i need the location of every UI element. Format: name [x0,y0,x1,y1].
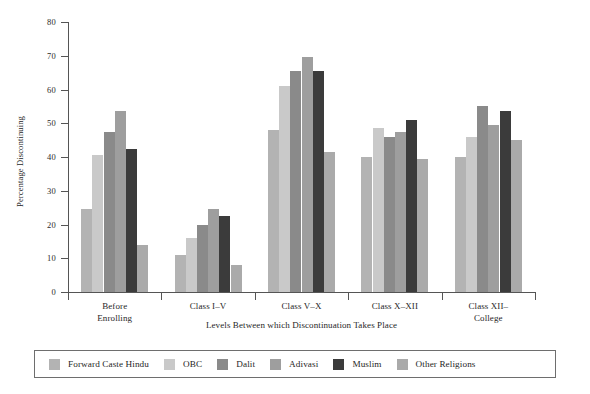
legend-label: Dalit [236,359,255,369]
y-axis-tick-label: 70 [30,52,56,61]
bar [186,238,197,292]
legend-item[interactable]: Forward Caste Hindu [49,359,149,370]
bar [313,71,324,292]
legend-item[interactable]: OBC [164,359,202,370]
legend: Forward Caste HinduOBCDalitAdivasiMuslim… [34,350,556,378]
x-axis-group-label-line: Class X–XII [345,301,445,313]
y-axis-tick [61,225,68,226]
bar [126,149,137,292]
legend-swatch-icon [164,359,175,370]
bar-chart-figure: 01020304050607080 Percentage Discontinui… [0,0,590,394]
y-axis-line [68,22,69,293]
y-axis-tick-label: 80 [30,18,56,27]
bar [231,265,242,292]
legend-label: Forward Caste Hindu [68,359,149,369]
x-axis-group-label: Class V–X [252,301,352,313]
bar [302,57,313,292]
legend-item[interactable]: Other Religions [397,359,476,370]
x-axis-group-label-line: College [438,313,538,325]
x-axis-tick [161,293,162,300]
bar [92,155,103,292]
bar [279,86,290,292]
y-axis-tick-label: 40 [30,153,56,162]
legend-label: Adivasi [289,359,318,369]
bar [324,152,335,292]
bar [384,137,395,292]
bar [268,130,279,292]
bar [373,128,384,292]
legend-label: Other Religions [416,359,476,369]
x-axis-tick [348,293,349,300]
x-axis-tick [255,293,256,300]
legend-item[interactable]: Muslim [333,359,381,370]
bar [290,71,301,292]
bar [406,120,417,292]
y-axis-tick-label: 10 [30,254,56,263]
plot-area [68,22,535,292]
legend-swatch-icon [270,359,281,370]
bar [455,157,466,292]
legend-item[interactable]: Adivasi [270,359,318,370]
legend-label: OBC [183,359,202,369]
bar [511,140,522,292]
bar [81,209,92,292]
y-axis-tick-label: 20 [30,221,56,230]
y-axis-tick [61,90,68,91]
bar [488,125,499,292]
y-axis-tick [61,292,68,293]
x-axis-tick [535,293,536,300]
legend-label: Muslim [352,359,381,369]
x-axis-group-label: Class X–XII [345,301,445,313]
y-axis-tick [61,56,68,57]
legend-swatch-icon [333,359,344,370]
bar [466,137,477,292]
bar [500,111,511,292]
x-axis-group-label-line: Before [65,301,165,313]
legend-swatch-icon [49,359,60,370]
bar [395,132,406,292]
x-axis-tick [68,293,69,300]
y-axis-tick [61,123,68,124]
y-axis-title: Percentage Discontinuing [16,82,25,242]
y-axis-tick-labels: 01020304050607080 [26,0,56,394]
y-axis-tick [61,191,68,192]
legend-swatch-icon [217,359,228,370]
bar [361,157,372,292]
bar [137,245,148,292]
bar [197,225,208,293]
y-axis-tick-label: 50 [30,119,56,128]
bar [208,209,219,292]
bar [104,132,115,292]
y-axis-tick [61,157,68,158]
x-axis-group-label-line: Class XII– [438,301,538,313]
legend-swatch-icon [397,359,408,370]
x-axis-group-label-line: Class I–V [158,301,258,313]
y-axis-tick-label: 60 [30,86,56,95]
legend-item[interactable]: Dalit [217,359,255,370]
y-axis-tick-label: 30 [30,187,56,196]
y-axis-tick-label: 0 [30,288,56,297]
x-axis-line [68,292,536,293]
bar [417,159,428,292]
legend-items: Forward Caste HinduOBCDalitAdivasiMuslim… [35,351,555,377]
x-axis-group-label-line: Class V–X [252,301,352,313]
x-axis-group-label-line: Enrolling [65,313,165,325]
y-axis-tick [61,22,68,23]
x-axis-group-label: Class XII–College [438,301,538,324]
bar [175,255,186,292]
x-axis-group-label: Class I–V [158,301,258,313]
x-axis-tick [442,293,443,300]
bar [219,216,230,292]
y-axis-tick [61,258,68,259]
bar [115,111,126,292]
bar [477,106,488,292]
x-axis-group-label: BeforeEnrolling [65,301,165,324]
